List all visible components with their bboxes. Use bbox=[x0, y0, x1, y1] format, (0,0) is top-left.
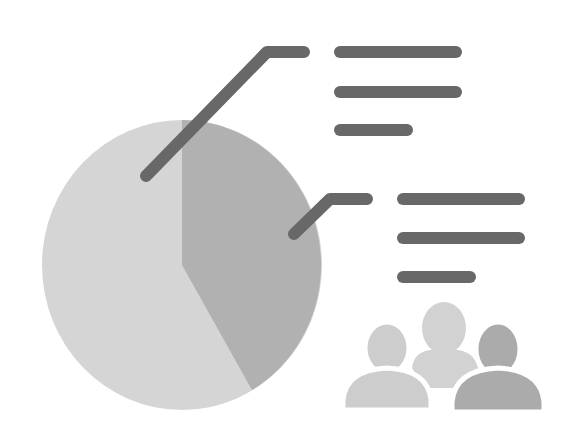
illustration-canvas bbox=[0, 0, 574, 430]
pie-chart-people-illustration bbox=[0, 0, 574, 430]
pie-chart-icon bbox=[42, 120, 322, 410]
callout-text-lines bbox=[340, 52, 519, 277]
people-group-icon bbox=[343, 302, 544, 412]
